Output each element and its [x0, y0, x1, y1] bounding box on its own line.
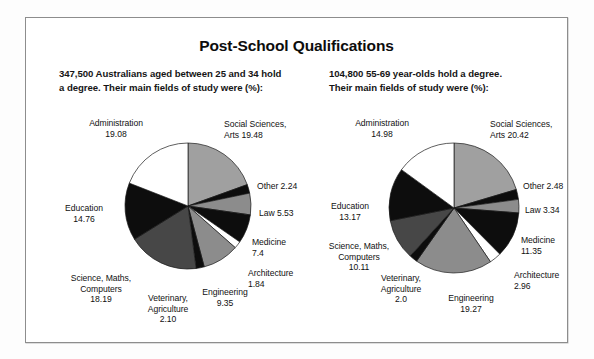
- page-title: Post-School Qualifications: [26, 37, 567, 55]
- pie-slice-label: Other 2.48: [523, 181, 591, 192]
- pie-slice-label: Social Sciences, Arts 19.48: [224, 119, 319, 140]
- pie-slice-label: Education 14.76: [52, 203, 116, 224]
- caption-left: 347,500 Australians aged between 25 and …: [59, 67, 309, 94]
- pie-slice-label: Medicine 7.4: [252, 237, 312, 258]
- pie-slice-label: Other 2.24: [257, 181, 325, 192]
- pie-slice-label: Engineering 9.35: [192, 287, 258, 308]
- pie-slice-label: Science, Maths, Computers 18.19: [62, 273, 140, 305]
- page-root: Post-School Qualifications 347,500 Austr…: [0, 0, 594, 359]
- pie-slice-label: Law 3.34: [525, 205, 591, 216]
- pie-slice-label: Social Sciences, Arts 20.42: [490, 119, 585, 140]
- pie-slice-label: Architecture 1.84: [248, 268, 314, 289]
- pie-slice-label: Law 5.53: [259, 208, 325, 219]
- pie-slices-left: [125, 143, 251, 269]
- pie-svg-right: [318, 113, 590, 351]
- pie-slice-label: Engineering 19.27: [436, 293, 506, 314]
- caption-right: 104,800 55-69 year-olds hold a degree. T…: [329, 67, 579, 94]
- pie-slice-label: Architecture 2.96: [514, 270, 582, 291]
- pie-slice-label: Administration 14.98: [340, 118, 424, 139]
- pie-slice-label: Science, Maths, Computers 10.11: [318, 241, 400, 273]
- pie-chart-25-34: Social Sciences, Arts 19.48Other 2.24Law…: [52, 113, 324, 351]
- pie-slice-label: Administration 19.08: [74, 118, 158, 139]
- pie-slices-right: [389, 143, 519, 273]
- chart-panel: Post-School Qualifications 347,500 Austr…: [25, 17, 568, 343]
- pie-chart-55-69: Social Sciences, Arts 20.42Other 2.48Law…: [318, 113, 590, 351]
- pie-slice-label: Veterinary, Agriculture 2.0: [370, 273, 432, 305]
- pie-slice-label: Education 13.17: [318, 201, 382, 222]
- pie-slice-label: Veterinary, Agriculture 2.10: [137, 293, 199, 325]
- pie-slice-label: Medicine 11.35: [521, 235, 581, 256]
